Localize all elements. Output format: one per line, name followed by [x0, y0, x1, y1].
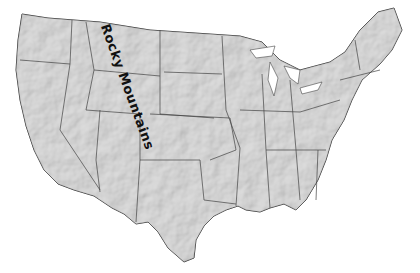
us-relief-map: [0, 0, 420, 273]
us-landmass: [16, 8, 402, 262]
